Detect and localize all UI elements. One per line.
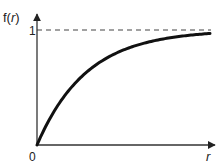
origin-label: 0 [29,150,36,164]
x-axis-label: r [206,149,211,164]
y-tick-one: 1 [29,24,36,38]
chart: f(r) 1 0 r [0,0,224,167]
y-axis-label: f(r) [3,10,20,25]
curve-f-of-r [37,33,210,145]
